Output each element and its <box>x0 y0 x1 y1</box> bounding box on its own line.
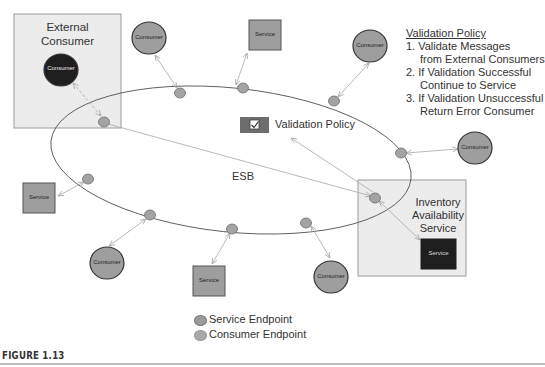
consumer-endpoint <box>145 210 156 220</box>
service-bottom-label: Service <box>193 277 225 283</box>
connector-consumer-top-left <box>155 55 177 88</box>
service-top-label: Service <box>249 31 281 37</box>
title-line: Availability <box>408 209 468 222</box>
connector-service-top <box>236 53 247 85</box>
connector-consumer-top-right <box>338 63 369 97</box>
external-consumer-node-label: Consumer <box>44 65 78 71</box>
policy-line: 1. Validate Messages <box>406 40 510 53</box>
consumer-right-label: Consumer <box>458 144 492 150</box>
esb-label: ESB <box>232 170 254 182</box>
consumer-endpoint <box>301 218 312 228</box>
title-line: External <box>14 20 121 34</box>
policy-panel-title: Validation Policy <box>406 27 486 39</box>
connector-consumer-right <box>406 149 458 153</box>
policy-line: Return Error Consumer <box>420 105 534 118</box>
legend-label: Service Endpoint <box>209 313 292 325</box>
validation-policy-label: Validation Policy <box>275 118 355 130</box>
consumer-top-left-label: Consumer <box>132 34 166 40</box>
connector-service-left <box>58 182 84 196</box>
service-endpoint <box>370 193 381 203</box>
consumer-endpoint <box>99 117 110 127</box>
inventory-service-title: Inventory Availability Service <box>408 196 468 235</box>
service-endpoint-legend-icon <box>194 315 207 326</box>
title-line: Service <box>408 222 468 235</box>
title-line: Inventory <box>408 196 468 209</box>
connector-inventory-to-policy <box>291 138 373 192</box>
service-endpoint <box>238 83 249 93</box>
checkbox-icon <box>250 120 259 129</box>
consumer-endpoint-legend-icon <box>194 330 207 341</box>
external-consumer-title: External Consumer <box>14 20 121 48</box>
service-left-label: Service <box>23 194 55 200</box>
policy-line: Continue to Service <box>420 79 516 92</box>
inventory-service-node-label: Service <box>421 250 456 256</box>
title-line: Consumer <box>14 34 121 48</box>
connector-external-to-inventory <box>108 124 371 196</box>
policy-line: 3. If Validation Unsuccessful <box>406 92 543 105</box>
consumer-endpoint <box>396 148 407 158</box>
policy-line: from External Consumers <box>420 53 545 66</box>
consumer-endpoint <box>329 96 340 106</box>
consumer-bottom-label: Consumer <box>314 273 348 279</box>
connector-consumer-bottom-left <box>109 219 146 246</box>
consumer-top-right-label: Consumer <box>353 42 387 48</box>
legend-label: Consumer Endpoint <box>209 328 306 340</box>
consumer-endpoint <box>175 88 186 98</box>
figure-caption: FIGURE 1.13 <box>2 349 65 361</box>
policy-line: 2. If Validation Successful <box>406 66 531 79</box>
service-endpoint <box>227 224 238 234</box>
caption-rule <box>0 363 545 365</box>
service-endpoint <box>83 174 94 184</box>
connector-service-bottom <box>212 233 230 264</box>
consumer-bottom-left-label: Consumer <box>90 259 124 265</box>
